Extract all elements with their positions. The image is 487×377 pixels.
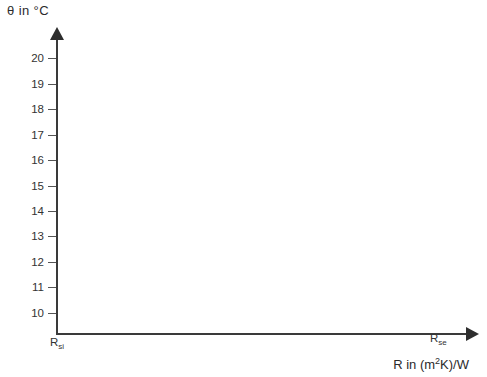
y-axis-tick-mark bbox=[48, 84, 56, 85]
x-axis-title-suffix: K)/W bbox=[440, 357, 469, 372]
x-axis-left-endpoint-label: Rsi bbox=[50, 336, 64, 351]
x-axis-title-prefix: R in (m bbox=[393, 357, 435, 372]
y-axis-line bbox=[56, 38, 58, 335]
y-axis-tick-mark bbox=[48, 313, 56, 314]
y-axis-tick-label: 13 bbox=[0, 230, 44, 242]
rsi-subscript: si bbox=[58, 342, 64, 351]
y-axis-tick-label: 12 bbox=[0, 256, 44, 268]
plot-area bbox=[58, 38, 471, 333]
chart-canvas: θ in °C 2019181716151413121110 Rsi Rse R… bbox=[0, 0, 487, 377]
y-axis-tick-label: 10 bbox=[0, 307, 44, 319]
x-axis-line bbox=[56, 333, 471, 335]
y-axis-tick-label: 17 bbox=[0, 129, 44, 141]
y-axis-tick-mark bbox=[48, 211, 56, 212]
y-axis-tick-mark bbox=[48, 287, 56, 288]
y-axis-tick-label: 20 bbox=[0, 52, 44, 64]
y-axis-arrow-icon bbox=[50, 27, 64, 40]
y-axis-tick-label: 16 bbox=[0, 154, 44, 166]
y-axis-tick-mark bbox=[48, 135, 56, 136]
y-axis-tick-mark bbox=[48, 236, 56, 237]
x-axis-right-endpoint-label: Rse bbox=[430, 332, 447, 347]
y-axis-tick-label: 15 bbox=[0, 180, 44, 192]
y-axis-tick-label: 11 bbox=[0, 281, 44, 293]
y-axis-title: θ in °C bbox=[7, 3, 49, 18]
y-axis-tick-mark bbox=[48, 262, 56, 263]
x-axis-title: R in (m2K)/W bbox=[393, 356, 469, 372]
x-axis-arrow-icon bbox=[466, 327, 479, 341]
rse-subscript: se bbox=[438, 338, 446, 347]
y-axis-tick-mark bbox=[48, 186, 56, 187]
y-axis-tick-mark bbox=[48, 160, 56, 161]
y-axis-tick-label: 14 bbox=[0, 205, 44, 217]
y-axis-tick-mark bbox=[48, 109, 56, 110]
y-axis-tick-label: 19 bbox=[0, 78, 44, 90]
y-axis-tick-label: 18 bbox=[0, 103, 44, 115]
y-axis-tick-mark bbox=[48, 58, 56, 59]
